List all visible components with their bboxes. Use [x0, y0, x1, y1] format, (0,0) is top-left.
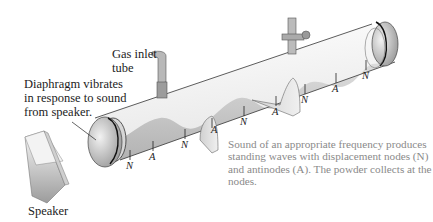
- node-marker: N: [362, 70, 369, 81]
- diaphragm-label-line3: from speaker.: [24, 105, 126, 119]
- diaphragm-label: Diaphragm vibrates in response to sound …: [24, 77, 126, 119]
- caption-line1: Sound of an appropriate frequency produc…: [228, 138, 433, 150]
- diaphragm-label-line1: Diaphragm vibrates: [24, 77, 126, 91]
- caption-line4: nodes.: [228, 175, 433, 187]
- caption-line3: and antinodes (A). The powder collects a…: [228, 163, 433, 175]
- gas-inlet-label-line2: tube: [112, 61, 157, 75]
- figure-caption: Sound of an appropriate frequency produc…: [228, 138, 433, 188]
- node-marker: N: [240, 116, 247, 127]
- speaker-icon: [25, 131, 69, 203]
- diaphragm-label-line2: in response to sound: [24, 91, 126, 105]
- antinode-marker: A: [211, 124, 217, 135]
- node-marker: N: [126, 160, 133, 171]
- speaker-label: Speaker: [28, 204, 68, 218]
- node-marker: N: [181, 139, 188, 150]
- gas-inlet-label: Gas inlet tube: [112, 47, 157, 75]
- node-marker: N: [301, 94, 308, 105]
- antinode-marker: A: [149, 151, 155, 162]
- gas-inlet-label-line1: Gas inlet: [112, 47, 157, 61]
- caption-line2: standing waves with displacement nodes (…: [228, 150, 433, 162]
- antinode-marker: A: [332, 83, 338, 94]
- kundt-tube-diagram: Gas inlet tube Diaphragm vibrates in res…: [0, 0, 433, 222]
- antinode-marker: A: [272, 106, 278, 117]
